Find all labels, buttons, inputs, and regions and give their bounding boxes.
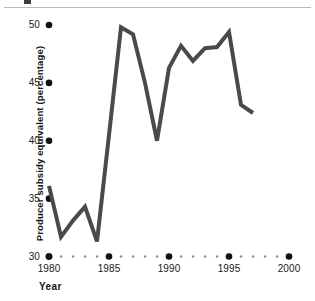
y-axis-tick-label: 50 — [18, 20, 40, 30]
x-axis-minor-tick-dot — [84, 255, 87, 258]
y-axis-tick-dots — [46, 22, 53, 260]
x-axis-tick-label: 1995 — [209, 264, 249, 274]
x-axis-minor-tick-dot — [276, 255, 279, 258]
x-axis-minor-tick-dot — [144, 255, 147, 258]
y-axis-tick-dot — [46, 253, 53, 260]
x-axis-minor-tick-dot — [132, 255, 135, 258]
x-axis-minor-tick-dot — [120, 255, 123, 258]
data-series-line — [49, 27, 253, 241]
x-axis-minor-tick-dot — [204, 255, 207, 258]
y-axis-tick-label: 30 — [18, 252, 40, 262]
x-axis-tick-label: 1980 — [29, 264, 69, 274]
y-axis-tick-dot — [46, 80, 53, 87]
x-axis-minor-tick-dot — [96, 255, 99, 258]
x-axis-major-tick-dot — [286, 253, 293, 260]
x-axis-major-tick-dot — [106, 253, 113, 260]
x-axis-tick-label: 1985 — [89, 264, 129, 274]
x-axis-minor-tick-dot — [216, 255, 219, 258]
x-axis-title: Year — [39, 281, 62, 292]
x-axis-minor-tick-dot — [156, 255, 159, 258]
x-axis-minor-tick-dot — [252, 255, 255, 258]
x-axis-tick-label: 1990 — [149, 264, 189, 274]
chart-figure: 3035404550 19801985199019952000 Producer… — [0, 0, 315, 301]
y-axis-tick-dot — [46, 137, 53, 144]
x-axis-minor-tick-dot — [192, 255, 195, 258]
y-axis-tick-dot — [46, 22, 53, 29]
x-axis-major-tick-dots — [46, 253, 293, 260]
x-axis-minor-tick-dot — [72, 255, 75, 258]
x-axis-minor-tick-dot — [60, 255, 63, 258]
x-axis-minor-tick-dot — [180, 255, 183, 258]
x-axis-major-tick-dot — [226, 253, 233, 260]
x-axis-tick-label: 2000 — [269, 264, 309, 274]
x-axis-major-tick-dot — [166, 253, 173, 260]
x-axis-minor-tick-dot — [240, 255, 243, 258]
y-axis-title: Producer subsidy equivalent (percentage) — [34, 35, 45, 253]
x-axis-minor-tick-dot — [264, 255, 267, 258]
line-chart-plot — [0, 0, 315, 301]
